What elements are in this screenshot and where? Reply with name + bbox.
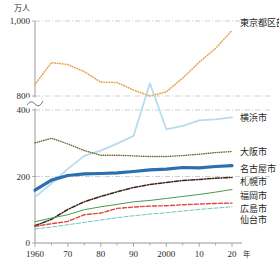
series-label-7: 仙台市: [240, 214, 267, 225]
series-label-6: 広島市: [240, 203, 267, 214]
series-label-3: 名古屋市: [240, 163, 276, 174]
x-tick-label-1960: 1960: [26, 249, 45, 259]
x-tick-label-1970: 70: [63, 249, 73, 259]
y-tick-label-0: 0: [26, 238, 31, 248]
x-tick-label-2020: 20: [228, 249, 238, 259]
series-label-4: 札幌市: [240, 176, 267, 187]
series-line-5: [35, 189, 232, 221]
series-line-3: [35, 166, 232, 191]
grid-layer: [35, 21, 270, 177]
series-line-1: [35, 83, 232, 197]
series-line-6: [35, 203, 232, 226]
series-label-1: 横浜市: [240, 112, 267, 123]
series-line-2: [35, 138, 232, 156]
chart-svg: 万人02004008001,000196070809020001020年 東京都…: [0, 0, 279, 268]
series-label-5: 福岡市: [240, 190, 267, 201]
x-tick-label-1980: 80: [96, 249, 106, 259]
x-tick-label-1990: 90: [129, 249, 139, 259]
population-line-chart: 万人02004008001,000196070809020001020年 東京都…: [0, 0, 279, 268]
y-axis-unit-label: 万人: [14, 4, 30, 13]
series-label-0: 東京都区部: [240, 17, 279, 28]
series-layer: [35, 30, 232, 229]
x-tick-label-2000: 2000: [157, 249, 176, 259]
y-tick-label-1000: 1,000: [10, 16, 31, 26]
series-line-7: [35, 207, 232, 229]
series-labels-layer: 東京都区部横浜市大阪市名古屋市札幌市福岡市広島市仙台市: [240, 17, 279, 225]
x-tick-label-2010: 10: [195, 249, 205, 259]
y-tick-label-200: 200: [17, 172, 31, 182]
axis-break-marker: [26, 98, 44, 109]
series-label-2: 大阪市: [240, 146, 267, 157]
x-axis-unit-label: 年: [243, 249, 251, 259]
axes-layer: [32, 21, 242, 247]
series-line-0: [35, 30, 232, 96]
